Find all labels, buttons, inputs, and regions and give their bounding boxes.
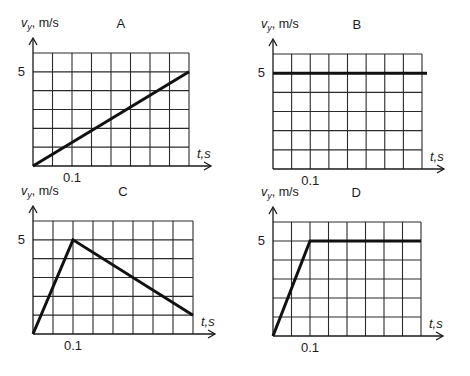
y-tick-label: 5 xyxy=(258,233,265,248)
panel-label: D xyxy=(352,185,361,200)
panel-label: B xyxy=(352,17,361,32)
chart-panel-c: vy, m/sC50.1t,s xyxy=(18,184,215,353)
y-tick-label: 5 xyxy=(18,64,25,79)
velocity-time-graphs: vy, m/sA50.1t,s vy, m/sB50.1t,s vy, m/sC… xyxy=(0,0,470,376)
grid-lines xyxy=(33,53,189,166)
y-axis-label: vy, m/s xyxy=(261,185,299,201)
x-axis-label: t,s xyxy=(429,316,443,331)
x-axis-label: t,s xyxy=(197,146,211,161)
y-axis-label: vy, m/s xyxy=(21,16,59,32)
x-tick-label: 0.1 xyxy=(301,340,319,355)
x-tick-label: 0.1 xyxy=(64,338,82,353)
panel-label: C xyxy=(118,184,127,199)
y-axis-label: vy, m/s xyxy=(261,17,299,33)
y-tick-label: 5 xyxy=(258,65,265,80)
x-tick-label: 0.1 xyxy=(63,170,81,185)
x-tick-label: 0.1 xyxy=(301,173,319,188)
x-axis-label: t,s xyxy=(430,149,444,164)
y-axis-label: vy, m/s xyxy=(21,184,59,200)
chart-panel-d: vy, m/sD50.1t,s xyxy=(258,185,443,355)
grid-lines xyxy=(273,54,422,169)
y-tick-label: 5 xyxy=(18,232,25,247)
panel-label: A xyxy=(116,16,125,31)
chart-panel-b: vy, m/sB50.1t,s xyxy=(258,17,444,188)
x-axis-label: t,s xyxy=(201,314,215,329)
chart-panel-a: vy, m/sA50.1t,s xyxy=(18,16,211,185)
